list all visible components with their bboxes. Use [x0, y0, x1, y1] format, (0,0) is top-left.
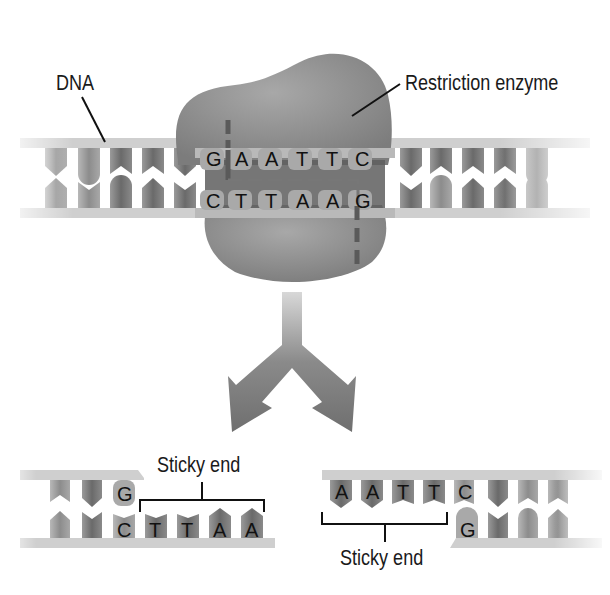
right-base-top-0: A	[335, 481, 349, 503]
split-arrow-icon	[228, 292, 356, 432]
base-bottom-2: T	[265, 190, 277, 212]
base-bottom-1: T	[235, 190, 247, 212]
base-bottom-4: A	[326, 190, 340, 212]
base-top-4: T	[326, 148, 338, 170]
right-base-top-2: T	[397, 481, 409, 503]
sticky-end-label-right: Sticky end	[340, 545, 423, 571]
right-base-top-1: A	[366, 481, 380, 503]
left-base-bottom-2: T	[181, 519, 193, 541]
left-base-top-0: G	[117, 483, 133, 505]
left-base-bottom-1: T	[149, 519, 161, 541]
right-base-bottom-0: G	[460, 519, 476, 541]
right-base-top-3: T	[428, 481, 440, 503]
base-bottom-0: C	[206, 190, 220, 212]
base-bottom-3: A	[296, 190, 310, 212]
base-top-3: T	[296, 148, 308, 170]
base-top-5: C	[355, 148, 369, 170]
dna-label: DNA	[56, 70, 94, 96]
left-base-bottom-4: A	[245, 519, 259, 541]
right-fragment: A A T T C G	[300, 460, 610, 555]
base-bottom-5: G	[355, 190, 371, 212]
base-top-0: G	[206, 148, 222, 170]
base-top-1: A	[235, 148, 249, 170]
sticky-end-label-left: Sticky end	[157, 452, 240, 478]
left-base-bottom-3: A	[213, 519, 227, 541]
right-base-top-4: C	[458, 481, 472, 503]
restriction-enzyme-label: Restriction enzyme	[405, 70, 558, 96]
left-fragment: G C T T A A	[0, 460, 300, 555]
left-base-bottom-0: C	[117, 519, 131, 541]
base-top-2: A	[265, 148, 279, 170]
